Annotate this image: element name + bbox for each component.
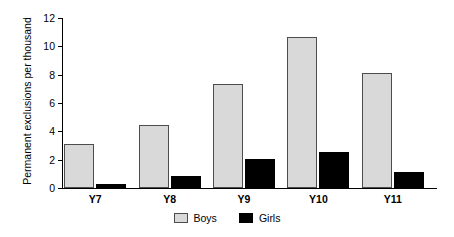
legend-swatch-girls: [239, 213, 253, 223]
y-tick-mark: [58, 188, 62, 189]
x-tick-label-y9: Y9: [238, 193, 251, 205]
bar-y8-girls: [171, 176, 201, 188]
y-axis-title: Permanent exclusions per thousand: [18, 1, 36, 201]
y-tick-label: 8: [49, 69, 55, 81]
bar-y9-boys: [213, 84, 243, 188]
bar-group: [360, 18, 434, 188]
y-tick-label: 10: [43, 40, 55, 52]
chart-legend: BoysGirls: [0, 212, 454, 224]
bar-y11-girls: [394, 172, 424, 188]
bar-y8-boys: [139, 125, 169, 188]
y-tick-label: 12: [43, 12, 55, 24]
legend-item-girls[interactable]: Girls: [239, 212, 281, 224]
bar-group: [211, 18, 285, 188]
plot-area: 024681012: [62, 18, 434, 188]
bar-y9-girls: [245, 159, 275, 188]
bar-y10-boys: [287, 37, 317, 188]
bar-y10-girls: [319, 152, 349, 188]
x-tick-label-y10: Y10: [309, 193, 328, 205]
bar-chart: Permanent exclusions per thousand 024681…: [0, 0, 454, 237]
legend-item-boys[interactable]: Boys: [174, 212, 217, 224]
legend-swatch-boys: [174, 213, 188, 223]
y-tick-label: 0: [49, 182, 55, 194]
legend-label-girls: Girls: [259, 212, 281, 224]
y-tick-label: 2: [49, 154, 55, 166]
bar-group: [285, 18, 359, 188]
x-axis-line: [62, 188, 437, 189]
bar-y7-girls: [96, 184, 126, 188]
bar-y11-boys: [362, 73, 392, 188]
x-tick-label-y11: Y11: [384, 193, 402, 205]
bar-group: [136, 18, 210, 188]
legend-label-boys: Boys: [194, 212, 217, 224]
bar-y7-boys: [64, 144, 94, 188]
x-tick-label-y7: Y7: [89, 193, 102, 205]
x-tick-label-y8: Y8: [163, 193, 176, 205]
y-tick-label: 6: [49, 97, 55, 109]
bar-group: [62, 18, 136, 188]
y-tick-label: 4: [49, 125, 55, 137]
